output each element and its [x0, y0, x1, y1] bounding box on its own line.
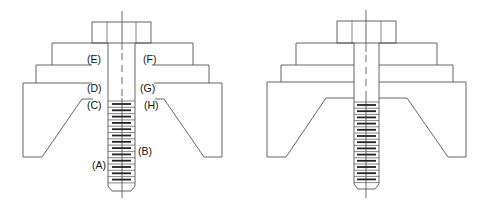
- label-d: (D): [87, 82, 102, 94]
- right-view: [267, 10, 466, 198]
- left-threads: [108, 101, 135, 183]
- diagram-canvas: (E) (F) (D) (G) (C) (H) (B) (A): [0, 0, 486, 202]
- label-b: (B): [138, 145, 152, 157]
- left-bolt-head: [92, 22, 151, 43]
- right-base-block: [267, 82, 354, 157]
- label-f: (F): [143, 53, 156, 65]
- right-step-1: [296, 43, 354, 65]
- right-step-2: [281, 65, 354, 82]
- left-step-2: [36, 65, 92, 83]
- left-base-block: [23, 83, 93, 157]
- left-view: (E) (F) (D) (G) (C) (H) (B) (A): [23, 11, 222, 198]
- right-bolt-head: [337, 21, 396, 43]
- right-threads: [354, 102, 379, 183]
- label-e: (E): [87, 53, 101, 65]
- bolt-assembly-diagram: (E) (F) (D) (G) (C) (H) (B) (A): [0, 0, 486, 202]
- label-c: (C): [87, 99, 102, 111]
- label-h: (H): [144, 99, 159, 111]
- label-g: (G): [140, 82, 155, 94]
- label-a: (A): [92, 159, 106, 171]
